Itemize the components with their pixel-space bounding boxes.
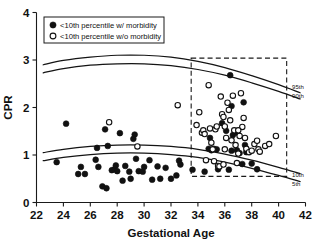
- data-point-series-1: [175, 102, 180, 107]
- legend-marker-open: [50, 33, 56, 39]
- data-point-series-0: [147, 157, 153, 163]
- data-point-series-0: [132, 132, 138, 138]
- data-point-series-0: [102, 126, 108, 132]
- data-point-series-1: [229, 138, 234, 143]
- data-point-series-1: [233, 142, 238, 147]
- data-point-series-0: [95, 164, 101, 170]
- data-point-series-1: [135, 144, 140, 149]
- percentile-label-10th: 10th: [292, 172, 304, 178]
- data-point-series-0: [75, 171, 81, 177]
- data-point-series-1: [273, 133, 278, 138]
- data-point-series-0: [178, 162, 184, 168]
- data-point-series-1: [254, 138, 259, 143]
- x-tick-label-30: 30: [138, 209, 151, 221]
- data-point-series-0: [113, 163, 119, 169]
- x-tick-label-34: 34: [192, 209, 205, 221]
- data-point-series-1: [226, 107, 231, 112]
- data-point-series-1: [206, 82, 211, 87]
- y-axis-title: CPR: [2, 95, 14, 120]
- scatter-plot: 012342224262830323436384042Gestational A…: [0, 0, 318, 243]
- x-tick-label-42: 42: [299, 209, 312, 221]
- legend-label-1: <10th percentile w/o morbidity: [60, 32, 161, 41]
- data-point-series-1: [210, 147, 215, 152]
- data-point-series-1: [223, 135, 228, 140]
- data-point-series-0: [128, 176, 134, 182]
- data-point-series-0: [126, 169, 132, 175]
- data-point-series-1: [234, 160, 239, 165]
- data-point-series-1: [207, 126, 212, 131]
- data-point-series-0: [229, 148, 235, 154]
- x-axis-title: Gestational Age: [127, 227, 214, 239]
- x-tick-label-24: 24: [57, 209, 70, 221]
- data-point-series-0: [155, 164, 161, 170]
- data-point-series-1: [222, 124, 227, 129]
- data-point-series-1: [257, 149, 262, 154]
- data-point-series-1: [241, 115, 246, 120]
- y-tick-label-1: 1: [23, 149, 30, 161]
- data-point-series-1: [237, 133, 242, 138]
- data-point-series-0: [254, 166, 260, 172]
- data-point-series-1: [222, 147, 227, 152]
- data-point-series-0: [149, 177, 155, 183]
- y-tick-label-3: 3: [23, 54, 29, 66]
- chart-figure: 012342224262830323436384042Gestational A…: [0, 0, 318, 243]
- data-point-series-1: [202, 131, 207, 136]
- data-point-series-0: [241, 99, 247, 105]
- y-tick-label-2: 2: [23, 102, 29, 114]
- data-point-series-1: [230, 93, 235, 98]
- data-point-series-0: [63, 121, 69, 127]
- x-tick-label-38: 38: [245, 209, 258, 221]
- data-point-series-1: [194, 122, 199, 127]
- data-point-series-0: [54, 159, 60, 165]
- data-point-series-0: [157, 176, 163, 182]
- data-point-series-0: [173, 173, 179, 179]
- data-point-series-0: [93, 157, 99, 163]
- data-point-series-0: [117, 130, 123, 136]
- data-point-series-0: [94, 145, 100, 151]
- x-tick-label-36: 36: [218, 209, 231, 221]
- data-point-series-1: [236, 151, 241, 156]
- percentile-label-90th: 90th: [292, 93, 304, 99]
- data-point-series-1: [225, 100, 230, 105]
- x-tick-label-40: 40: [272, 209, 285, 221]
- legend-label-0: <10th percentile w/ morbidity: [60, 21, 157, 30]
- data-point-series-1: [242, 135, 247, 140]
- data-point-series-1: [236, 128, 241, 133]
- y-tick-label-0: 0: [23, 197, 29, 209]
- data-point-series-0: [202, 169, 208, 175]
- data-point-series-0: [104, 185, 110, 191]
- x-tick-label-26: 26: [84, 209, 97, 221]
- data-point-series-0: [249, 161, 255, 167]
- x-tick-label-22: 22: [30, 209, 43, 221]
- data-point-series-0: [114, 168, 120, 174]
- data-point-series-0: [163, 165, 169, 171]
- data-point-series-1: [106, 120, 111, 125]
- data-point-series-1: [266, 141, 271, 146]
- data-point-series-0: [133, 156, 139, 162]
- percentile-label-95th: 95th: [292, 84, 304, 90]
- percentile-curve-95th: [43, 55, 300, 93]
- data-point-series-1: [203, 158, 208, 163]
- data-point-series-1: [211, 158, 216, 163]
- data-point-series-0: [105, 143, 111, 149]
- data-point-series-1: [249, 148, 254, 153]
- data-point-series-1: [227, 118, 232, 123]
- data-point-series-0: [227, 72, 233, 78]
- data-point-series-1: [238, 91, 243, 96]
- data-point-series-0: [120, 178, 126, 184]
- y-tick-label-4: 4: [23, 7, 30, 19]
- x-tick-label-32: 32: [165, 209, 178, 221]
- data-point-series-1: [209, 140, 214, 145]
- data-point-series-0: [122, 163, 128, 169]
- percentile-label-5th: 5th: [292, 181, 300, 187]
- data-point-series-1: [214, 124, 219, 129]
- data-point-series-1: [221, 114, 226, 119]
- data-point-series-0: [78, 164, 84, 170]
- data-point-series-0: [226, 167, 232, 173]
- data-point-series-1: [197, 110, 202, 115]
- data-point-series-0: [239, 161, 245, 167]
- plot-content: 012342224262830323436384042Gestational A…: [2, 7, 312, 239]
- legend-marker-filled: [50, 22, 56, 28]
- data-point-series-0: [82, 171, 88, 177]
- percentile-curve-90th: [43, 64, 300, 99]
